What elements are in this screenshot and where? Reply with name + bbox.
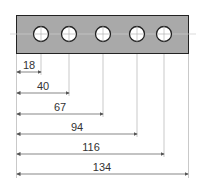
dim-label-18: 18: [23, 59, 35, 71]
extension-lines: [17, 41, 189, 178]
dim-label-94: 94: [71, 121, 83, 133]
dim-label-116: 116: [82, 141, 100, 153]
dimension-drawing: 18 40 67 94 116 134: [0, 0, 204, 185]
dim-label-67: 67: [54, 101, 66, 113]
dim-label-134: 134: [93, 161, 111, 173]
dim-label-40: 40: [37, 80, 49, 92]
